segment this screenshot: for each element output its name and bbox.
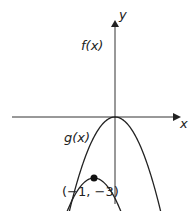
coordinate-plane bbox=[0, 0, 191, 211]
x-axis-label: x bbox=[180, 117, 188, 130]
point-label: (−1, −3) bbox=[62, 185, 119, 198]
graph-figure: y x f(x) g(x) (−1, −3) bbox=[0, 0, 191, 211]
y-axis-arrow-icon bbox=[111, 20, 119, 27]
g-label: g(x) bbox=[64, 131, 90, 144]
vertex-point bbox=[91, 175, 98, 182]
f-label: f(x) bbox=[81, 39, 103, 52]
y-axis-label: y bbox=[119, 8, 127, 21]
